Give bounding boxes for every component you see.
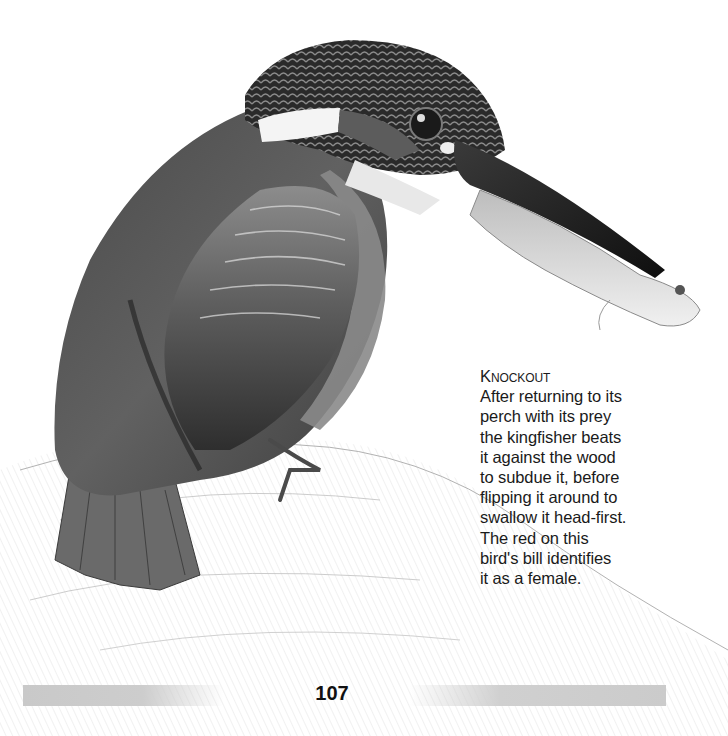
caption-line: After returning to its xyxy=(480,386,680,406)
eye xyxy=(410,108,442,140)
footer-bar-right xyxy=(410,685,666,706)
book-page: Knockout After returning to its perch wi… xyxy=(0,0,728,736)
caption-title: Knockout xyxy=(480,366,680,386)
caption-line: it as a female. xyxy=(480,568,680,588)
caption-line: The red on this xyxy=(480,528,680,548)
caption-line: it against the wood xyxy=(480,447,680,467)
caption-line: the kingfisher beats xyxy=(480,427,680,447)
caption-line: bird's bill identifies xyxy=(480,548,680,568)
caption-line: swallow it head-first. xyxy=(480,507,680,527)
page-number: 107 xyxy=(300,682,364,705)
caption-line: flipping it around to xyxy=(480,487,680,507)
caption-block: Knockout After returning to its perch wi… xyxy=(480,366,680,588)
footer-bar-left xyxy=(23,685,223,706)
caption-line: perch with its prey xyxy=(480,406,680,426)
caption-line: to subdue it, before xyxy=(480,467,680,487)
